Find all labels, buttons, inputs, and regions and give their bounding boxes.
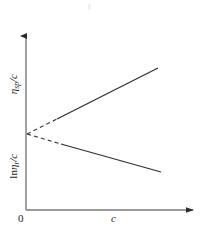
kraemer-line-solid <box>61 144 161 172</box>
kraemer-line-dashed-extrapolation <box>27 134 61 144</box>
y-axis-label-huggins: ηsp/c <box>8 58 20 110</box>
per-concentration-lower: /c <box>7 154 19 162</box>
x-axis-label: c <box>111 213 116 224</box>
viscosity-plot-figure: 0 c ηsp/c lnηr/c <box>0 0 208 234</box>
eta-subscript-r: r <box>12 162 21 165</box>
huggins-line-solid <box>57 68 158 119</box>
eta-subscript-sp: sp <box>12 82 21 89</box>
x-axis-origin-label: 0 <box>18 213 24 224</box>
plot-canvas <box>0 0 208 234</box>
eta-symbol-upper: η <box>7 89 19 94</box>
y-axis-label-kraemer: lnηr/c <box>8 139 20 193</box>
eta-symbol-lower: η <box>7 165 19 170</box>
huggins-line-dashed-extrapolation <box>27 119 57 134</box>
ln-prefix: ln <box>7 170 19 179</box>
per-concentration-upper: /c <box>7 74 19 82</box>
